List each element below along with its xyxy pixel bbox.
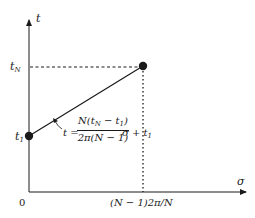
equation-denominator: 2π(N − 1) bbox=[78, 131, 129, 143]
x-axis-label: σ bbox=[237, 176, 245, 187]
num-prefix: N(t bbox=[78, 115, 95, 126]
num-suffix: ) bbox=[124, 115, 128, 126]
y-tick-t1: t1 bbox=[15, 131, 24, 144]
end-point bbox=[139, 62, 147, 70]
tn-sub: N bbox=[14, 66, 20, 74]
t1-sub: 1 bbox=[19, 136, 23, 144]
x-tick-label: (N − 1)2π/N bbox=[110, 198, 173, 208]
num-mid: − t bbox=[101, 115, 120, 126]
origin-label: 0 bbox=[19, 198, 25, 208]
rhs-sub: 1 bbox=[148, 132, 152, 140]
equation-rhs: σ + t1 bbox=[122, 128, 152, 140]
equation-pointer-arrow bbox=[55, 121, 62, 129]
y-axis-label: t bbox=[36, 13, 40, 24]
start-point bbox=[25, 132, 33, 140]
rhs-text: σ + t bbox=[122, 127, 148, 138]
diagram-canvas bbox=[0, 0, 255, 218]
y-tick-tn: tN bbox=[10, 61, 21, 74]
